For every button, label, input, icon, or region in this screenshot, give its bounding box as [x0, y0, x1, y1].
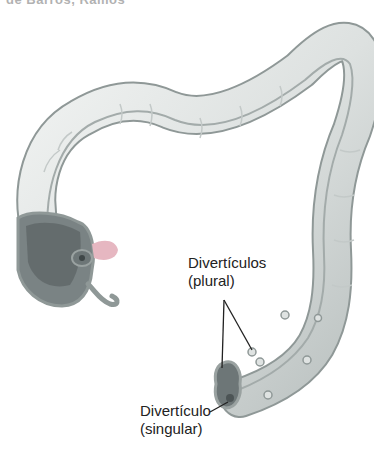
label-diverticula-plural: Divertículos (plural)	[188, 254, 266, 290]
colon-tube	[36, 42, 363, 398]
label-plural-qualifier: (plural)	[188, 272, 266, 290]
colon-illustration	[0, 0, 374, 460]
label-singular-term: Divertículo	[140, 402, 211, 420]
label-plural-term: Divertículos	[188, 254, 266, 272]
label-singular-qualifier: (singular)	[140, 420, 211, 438]
sigmoid-cut-end	[215, 362, 240, 408]
label-diverticulum-singular: Divertículo (singular)	[140, 402, 211, 438]
cecum-cutaway	[18, 213, 118, 306]
